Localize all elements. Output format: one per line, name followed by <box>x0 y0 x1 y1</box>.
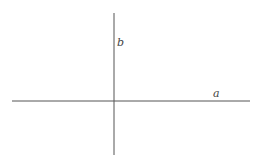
axes-drawing <box>0 0 257 166</box>
line-b-label: b <box>117 37 124 48</box>
diagram-canvas: b a <box>0 0 257 166</box>
line-a-label: a <box>213 88 220 99</box>
